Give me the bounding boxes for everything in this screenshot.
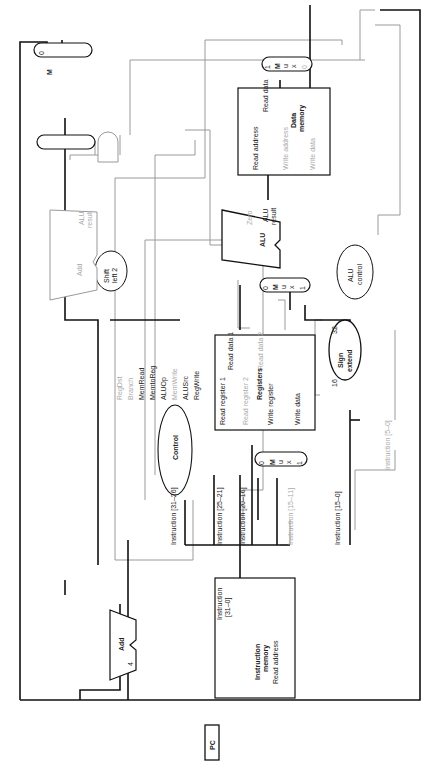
mux-in-0: 0 [38,51,45,55]
pc-mux-overlay: 0 M [0,0,432,766]
pc-source-mux: 0 M [34,43,92,75]
mux-m: M [46,69,53,75]
